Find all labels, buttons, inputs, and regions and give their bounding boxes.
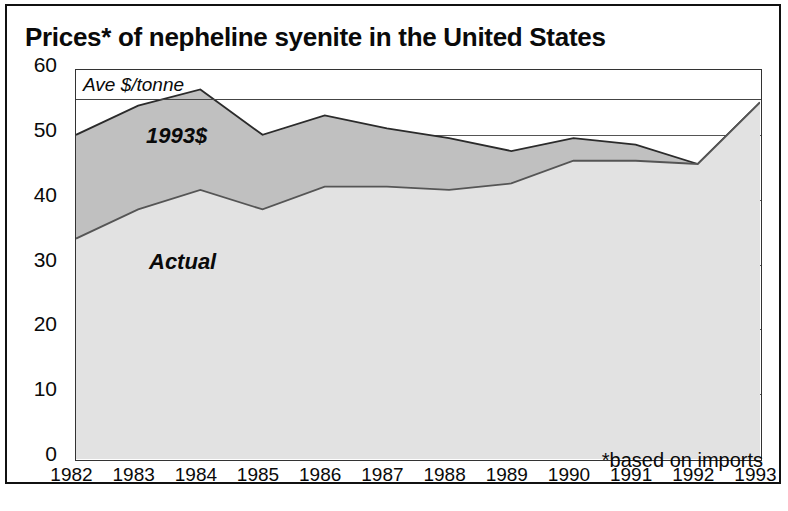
- x-tick-1992: 1992: [672, 465, 714, 484]
- page-title: Prices* of nepheline syenite in the Unit…: [25, 22, 765, 53]
- y-tick-40: 40: [11, 184, 57, 205]
- x-tick-1989: 1989: [486, 465, 528, 484]
- y-tick-60: 60: [11, 54, 57, 75]
- y-tick-0: 0: [11, 443, 57, 464]
- x-tick-1990: 1990: [548, 465, 590, 484]
- x-tick-1983: 1983: [113, 465, 155, 484]
- x-tick-1985: 1985: [237, 465, 279, 484]
- x-tick-1986: 1986: [299, 465, 341, 484]
- y-axis-unit-label: Ave $/tonne: [83, 74, 184, 96]
- series-label-actual: Actual: [149, 249, 216, 275]
- series-label-1993-dollars: 1993$: [146, 123, 207, 149]
- x-tick-1988: 1988: [423, 465, 465, 484]
- chart-figure: Prices* of nepheline syenite in the Unit…: [0, 0, 788, 511]
- y-tick-30: 30: [11, 249, 57, 270]
- chart-outer-frame: Prices* of nepheline syenite in the Unit…: [5, 4, 781, 484]
- x-tick-1991: 1991: [610, 465, 652, 484]
- x-tick-1993: 1993: [734, 465, 776, 484]
- y-tick-10: 10: [11, 378, 57, 399]
- x-tick-1984: 1984: [175, 465, 217, 484]
- x-tick-1987: 1987: [361, 465, 403, 484]
- y-tick-20: 20: [11, 313, 57, 334]
- y-tick-50: 50: [11, 119, 57, 140]
- x-tick-1982: 1982: [50, 465, 92, 484]
